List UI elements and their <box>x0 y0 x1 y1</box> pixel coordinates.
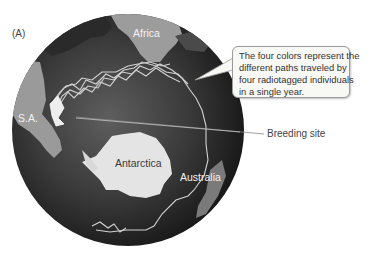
callout-line-2: different paths traveled by <box>239 62 345 74</box>
callout-line-1: The four colors represent the <box>239 50 345 62</box>
callout-box: The four colors represent the different … <box>232 46 350 98</box>
panel-label: (A) <box>12 28 25 39</box>
antarctica-label: Antarctica <box>115 157 162 169</box>
callout-line-4: in a single year. <box>239 86 345 98</box>
callout-line-3: four radiotagged individuals <box>239 74 345 86</box>
australia-label: Australia <box>180 171 221 183</box>
breeding-site-label: Breeding site <box>267 128 325 139</box>
south-america-label: S.A. <box>18 112 38 124</box>
africa-label: Africa <box>133 27 160 39</box>
